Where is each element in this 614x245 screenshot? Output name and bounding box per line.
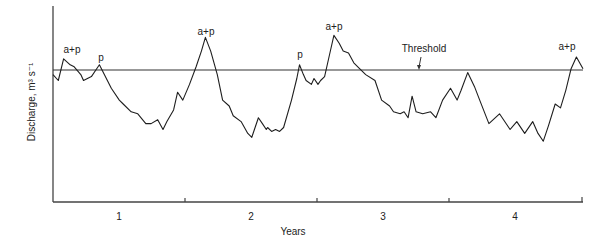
x-tick-label: 2 xyxy=(248,211,254,222)
y-axis-label: Discharge, m³ s⁻¹ xyxy=(26,62,37,141)
discharge-line xyxy=(53,35,583,141)
peak-label: p xyxy=(98,52,104,63)
peak-label: a+p xyxy=(559,41,576,52)
threshold-label: Threshold xyxy=(402,43,446,54)
x-axis-label: Years xyxy=(280,226,305,237)
x-tick-label: 4 xyxy=(512,211,518,222)
peak-label: a+p xyxy=(198,26,215,37)
threshold-arrowhead-icon xyxy=(417,65,421,70)
hydrograph-chart: 1 2 3 4 Years Discharge, m³ s⁻¹ Threshol… xyxy=(0,0,614,245)
peak-label: p xyxy=(297,49,303,60)
peak-label: a+p xyxy=(326,21,343,32)
peak-label: a+p xyxy=(64,44,81,55)
x-tick-label: 1 xyxy=(116,211,122,222)
x-tick-label: 3 xyxy=(380,211,386,222)
